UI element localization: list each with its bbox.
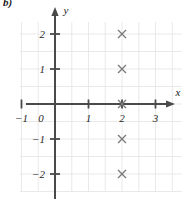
origin-label: 0	[38, 112, 44, 124]
x-axis-arrowhead	[166, 100, 175, 107]
y-tick-label: −1	[32, 133, 45, 145]
y-axis-label: y	[63, 4, 69, 16]
x-tick-label: 2	[119, 112, 125, 124]
x-tick-label: 1	[86, 112, 92, 124]
x-tick-label: −1	[15, 112, 28, 124]
gridlines	[20, 22, 182, 192]
graph-figure: b) −1123021−1−2 x y	[0, 0, 188, 205]
y-axis-arrowhead	[51, 7, 58, 16]
axis-lines	[26, 7, 175, 199]
x-axis-label: x	[175, 86, 181, 98]
coordinate-plot: −1123021−1−2 x y	[0, 0, 188, 205]
y-tick-label: 1	[40, 63, 46, 75]
x-tick-label: 3	[152, 112, 159, 124]
y-tick-label: −2	[32, 168, 45, 180]
y-tick-label: 2	[40, 28, 46, 40]
